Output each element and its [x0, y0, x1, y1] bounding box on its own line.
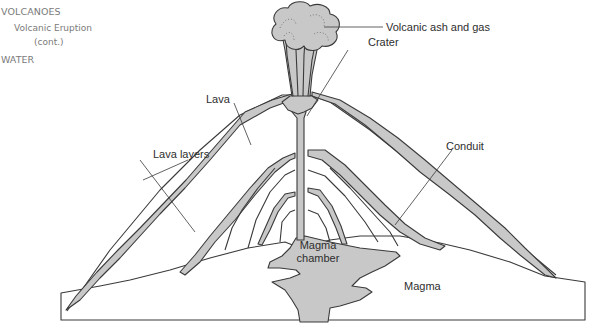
crater: [282, 95, 318, 114]
label-magma: Magma: [404, 280, 442, 292]
leader-lava-layers-1: [143, 160, 188, 180]
lava-layer-inner-right: [308, 188, 347, 244]
conduit: [288, 100, 306, 240]
lava-layer-inner-left: [258, 192, 295, 245]
ash-cloud: [272, 2, 339, 51]
label-conduit: Conduit: [446, 140, 484, 152]
label-lava: Lava: [206, 93, 231, 105]
label-magma-chamber-line2: chamber: [297, 252, 340, 264]
label-lava-layers: Lava layers: [153, 148, 210, 160]
label-magma-chamber-line1: Magma: [300, 239, 338, 251]
label-crater: Crater: [368, 36, 399, 48]
label-volcanic-ash-and-gas: Volcanic ash and gas: [386, 21, 490, 33]
inner-line-left-2: [280, 210, 295, 242]
volcano-diagram: Volcanic ash and gas Crater Lava Conduit…: [0, 0, 594, 333]
